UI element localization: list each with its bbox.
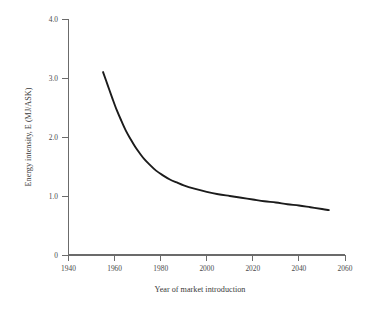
y-tick-label-3: 3.0 <box>49 74 59 83</box>
data-series-line <box>103 72 329 210</box>
x-tick-label-2060: 2060 <box>338 264 353 273</box>
x-tick-label-2020: 2020 <box>245 264 260 273</box>
y-axis-title: Energy intensity, E (MJ/ASK) <box>24 87 33 186</box>
y-tick-label-4: 4.0 <box>49 15 59 24</box>
y-tick-label-0: 0 <box>54 251 58 260</box>
energy-intensity-line-chart: 4.0 3.0 2.0 1.0 0 1940 1960 1980 2000 20… <box>0 0 367 310</box>
chart-page: 4.0 3.0 2.0 1.0 0 1940 1960 1980 2000 20… <box>0 0 367 310</box>
x-axis-title: Year of market introduction <box>155 285 246 294</box>
x-tick-label-2040: 2040 <box>292 264 307 273</box>
x-tick-label-1980: 1980 <box>153 264 168 273</box>
y-tick-label-1: 1.0 <box>49 192 59 201</box>
x-tick-label-2000: 2000 <box>199 264 214 273</box>
x-tick-label-1940: 1940 <box>61 264 76 273</box>
x-tick-label-1960: 1960 <box>107 264 122 273</box>
y-tick-label-2: 2.0 <box>49 133 59 142</box>
